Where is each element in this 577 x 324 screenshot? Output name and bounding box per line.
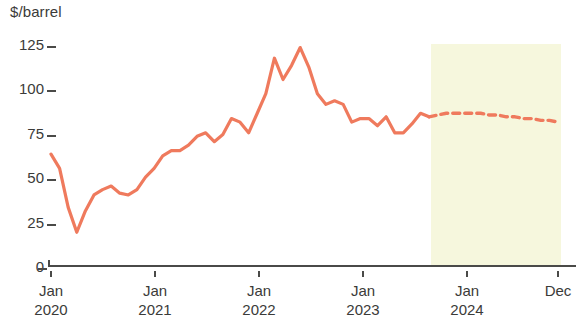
x-tick-label-jan-2022-month: Jan xyxy=(214,281,304,300)
x-tick-mark-jan-2024 xyxy=(466,271,468,277)
x-tick-label-dec-2024-month: Dec xyxy=(513,281,577,300)
x-tick-label-jan-2023-year: 2023 xyxy=(318,300,408,319)
x-tick-label-jan-2020-month: Jan xyxy=(6,281,96,300)
x-tick-label-jan-2023-month: Jan xyxy=(318,281,408,300)
x-tick-label-jan-2021: Jan 2021 xyxy=(110,281,200,319)
oil-price-chart: $/barrel 125 100 75 50 25 0 Jan 2020 Jan… xyxy=(0,0,577,324)
plot-area xyxy=(0,0,577,324)
x-tick-mark-jan-2021 xyxy=(154,271,156,277)
x-tick-label-jan-2020: Jan 2020 xyxy=(6,281,96,319)
x-tick-label-dec-2024: Dec xyxy=(513,281,577,300)
x-tick-mark-dec-2024 xyxy=(557,271,559,277)
x-tick-label-jan-2024: Jan 2024 xyxy=(422,281,512,319)
x-tick-label-jan-2024-year: 2024 xyxy=(422,300,512,319)
x-tick-label-jan-2024-month: Jan xyxy=(422,281,512,300)
x-tick-label-jan-2022: Jan 2022 xyxy=(214,281,304,319)
x-tick-label-jan-2021-year: 2021 xyxy=(110,300,200,319)
y-axis-origin-mark xyxy=(48,260,50,267)
forecast-shaded-region xyxy=(431,44,561,266)
x-tick-label-jan-2020-year: 2020 xyxy=(6,300,96,319)
x-axis-line xyxy=(48,265,576,267)
x-tick-mark-jan-2022 xyxy=(258,271,260,277)
x-tick-label-jan-2022-year: 2022 xyxy=(214,300,304,319)
x-tick-label-jan-2021-month: Jan xyxy=(110,281,200,300)
x-tick-mark-jan-2023 xyxy=(362,271,364,277)
history-line xyxy=(51,48,429,233)
x-tick-label-jan-2023: Jan 2023 xyxy=(318,281,408,319)
x-tick-mark-jan-2020 xyxy=(50,271,52,277)
